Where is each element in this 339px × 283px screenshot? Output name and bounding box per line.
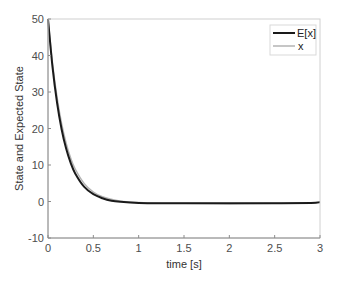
y-tick-label: 50	[32, 13, 44, 25]
x-tick-label: 2	[226, 242, 232, 254]
x-tick-label: 0	[45, 242, 51, 254]
legend: E[x] x	[270, 25, 316, 55]
x-tick-label: 1	[136, 242, 142, 254]
y-tick-label: 10	[32, 159, 44, 171]
y-tick-label: 40	[32, 50, 44, 62]
x-tick-label: 2.5	[267, 242, 282, 254]
x-tick-label: 1.5	[176, 242, 191, 254]
legend-label-state: x	[298, 40, 304, 52]
y-tick-label: 0	[38, 196, 44, 208]
y-tick-label: -10	[28, 232, 44, 244]
y-tick-label: 20	[32, 123, 44, 135]
line-chart: 00.511.522.53 -1001020304050 time [s] St…	[0, 0, 339, 283]
x-tick-label: 3	[317, 242, 323, 254]
y-tick-label: 30	[32, 86, 44, 98]
y-axis-label: State and Expected State	[13, 66, 25, 191]
legend-label-expected: E[x]	[297, 27, 316, 39]
x-tick-label: 0.5	[86, 242, 101, 254]
x-axis-label: time [s]	[166, 258, 201, 270]
